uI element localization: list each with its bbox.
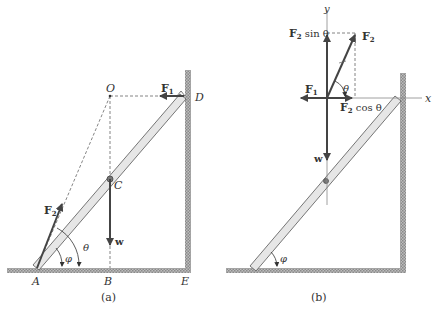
- label-w: w: [114, 236, 124, 247]
- angle-phi-arc: [56, 248, 62, 266]
- caption-a: (a): [101, 291, 116, 304]
- angle-phi-arc: [271, 252, 277, 266]
- label-A: A: [31, 275, 40, 288]
- point-O: [109, 95, 112, 98]
- label-B: B: [103, 275, 112, 288]
- force-F2-arrow: [327, 35, 355, 98]
- label-F1: F1: [305, 83, 318, 97]
- label-O: O: [106, 82, 115, 95]
- wall: [400, 73, 406, 273]
- label-theta: θ: [83, 242, 89, 253]
- label-phi: φ: [65, 253, 72, 264]
- floor: [7, 268, 191, 273]
- label-F2: F2: [362, 30, 375, 44]
- center-of-mass: [324, 179, 329, 184]
- axis-label-y: y: [323, 3, 330, 14]
- label-theta: θ: [343, 83, 349, 94]
- caption-b: (b): [311, 291, 327, 304]
- label-F2cos: F2 cos θ: [340, 101, 382, 115]
- label-F2sin: F2 sin θ: [289, 27, 329, 41]
- label-F1: F1: [161, 82, 174, 96]
- label-F2: F2: [44, 204, 57, 218]
- ladder-diagram: O D C A B E F1 F2 w φ θ (a) y x: [0, 0, 439, 310]
- label-phi: φ: [280, 253, 287, 264]
- label-D: D: [194, 91, 204, 104]
- wall: [185, 70, 191, 273]
- label-E: E: [180, 275, 189, 288]
- label-C: C: [114, 179, 123, 192]
- panel-a: O D C A B E F1 F2 w φ θ (a): [7, 70, 204, 304]
- panel-b: y x F2 sin θ F2 F1 F2 cos θ w θ φ (b): [226, 3, 432, 304]
- label-w: w: [313, 153, 323, 164]
- axis-label-x: x: [425, 92, 432, 105]
